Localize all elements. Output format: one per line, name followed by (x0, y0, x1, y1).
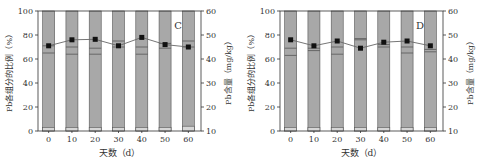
data-marker (93, 37, 98, 42)
bar (424, 11, 436, 131)
bar (136, 11, 148, 131)
y-tick-label: 40 (265, 79, 275, 88)
y2-tick-label: 10 (448, 127, 458, 136)
y2-tick-label: 40 (206, 55, 216, 64)
y2-tick-label: 30 (448, 79, 458, 88)
bar-bottom-segment (182, 126, 194, 131)
y-tick-label: 0 (270, 127, 275, 136)
y2-tick-label: 60 (206, 7, 216, 16)
data-marker (311, 43, 316, 48)
x-tick-label: 60 (425, 135, 435, 144)
x-tick-label: 60 (183, 135, 193, 144)
data-marker (288, 37, 293, 42)
x-axis-label: 天数（d） (99, 147, 141, 158)
bar (66, 11, 78, 131)
x-axis-label: 天数（d） (341, 147, 383, 158)
bar (401, 11, 413, 131)
y2-tick-label: 10 (206, 127, 216, 136)
y-tick-label: 80 (23, 31, 33, 40)
x-tick-label: 40 (137, 135, 147, 144)
y2-tick-label: 30 (206, 79, 216, 88)
bar-bottom-segment (113, 127, 125, 131)
data-marker (405, 39, 410, 44)
bar-bottom-segment (66, 127, 78, 131)
data-marker (358, 46, 363, 51)
chart-panel-c: 0204060801001020304050600102030405060天数（… (0, 0, 242, 165)
bar-bottom-segment (331, 127, 343, 131)
y-tick-label: 60 (23, 55, 33, 64)
y2-tick-label: 50 (206, 31, 216, 40)
x-tick-label: 0 (288, 135, 293, 144)
y2-tick-label: 40 (448, 55, 458, 64)
x-tick-label: 50 (160, 135, 170, 144)
panel-label: D (416, 20, 424, 31)
x-tick-label: 30 (355, 135, 365, 144)
bar (182, 11, 194, 131)
bar-bottom-segment (308, 127, 320, 131)
x-tick-label: 10 (309, 135, 319, 144)
x-tick-label: 30 (113, 135, 123, 144)
bar (43, 11, 55, 131)
x-tick-label: 20 (90, 135, 100, 144)
chart-d: 0204060801001020304050600102030405060天数（… (242, 0, 484, 165)
y-tick-label: 100 (18, 7, 33, 16)
bar-bottom-segment (43, 127, 55, 131)
y-tick-label: 20 (265, 103, 275, 112)
y2-tick-label: 20 (448, 103, 458, 112)
x-tick-label: 0 (46, 135, 51, 144)
x-tick-label: 40 (379, 135, 389, 144)
data-marker (139, 35, 144, 40)
y-tick-label: 80 (265, 31, 275, 40)
y2-tick-label: 50 (448, 31, 458, 40)
y2-axis-label: Pb含量（mg/kg） (465, 37, 475, 105)
bar-bottom-segment (424, 127, 436, 131)
bar-bottom-segment (89, 127, 101, 131)
y-tick-label: 100 (260, 7, 275, 16)
bar (113, 11, 125, 131)
x-tick-label: 20 (332, 135, 342, 144)
y-tick-label: 60 (265, 55, 275, 64)
data-marker (163, 42, 168, 47)
bar-bottom-segment (401, 127, 413, 131)
data-marker (186, 45, 191, 50)
x-tick-label: 50 (402, 135, 412, 144)
y2-tick-label: 20 (206, 103, 216, 112)
bar-bottom-segment (159, 127, 171, 131)
y2-axis-label: Pb含量（mg/kg） (223, 37, 233, 105)
bar (355, 11, 367, 131)
y-tick-label: 40 (23, 79, 33, 88)
chart-panel-d: 0204060801001020304050600102030405060天数（… (242, 0, 484, 165)
bar-bottom-segment (285, 127, 297, 131)
data-marker (116, 43, 121, 48)
y-tick-label: 0 (28, 127, 33, 136)
data-marker (335, 39, 340, 44)
bar (378, 11, 390, 131)
y-axis-label: Pb各组分的比例（%） (246, 30, 256, 112)
bar (285, 11, 297, 131)
data-marker (46, 43, 51, 48)
bar (89, 11, 101, 131)
y2-tick-label: 60 (448, 7, 458, 16)
y-axis-label: Pb各组分的比例（%） (4, 30, 14, 112)
data-marker (381, 40, 386, 45)
bar (308, 11, 320, 131)
x-tick-label: 10 (67, 135, 77, 144)
chart-c: 0204060801001020304050600102030405060天数（… (0, 0, 242, 165)
panel-label: C (174, 20, 182, 31)
bar-bottom-segment (355, 127, 367, 131)
bar-bottom-segment (378, 127, 390, 131)
data-marker (69, 37, 74, 42)
y-tick-label: 20 (23, 103, 33, 112)
bar-bottom-segment (136, 127, 148, 131)
bar (331, 11, 343, 131)
data-marker (428, 43, 433, 48)
bar (159, 11, 171, 131)
